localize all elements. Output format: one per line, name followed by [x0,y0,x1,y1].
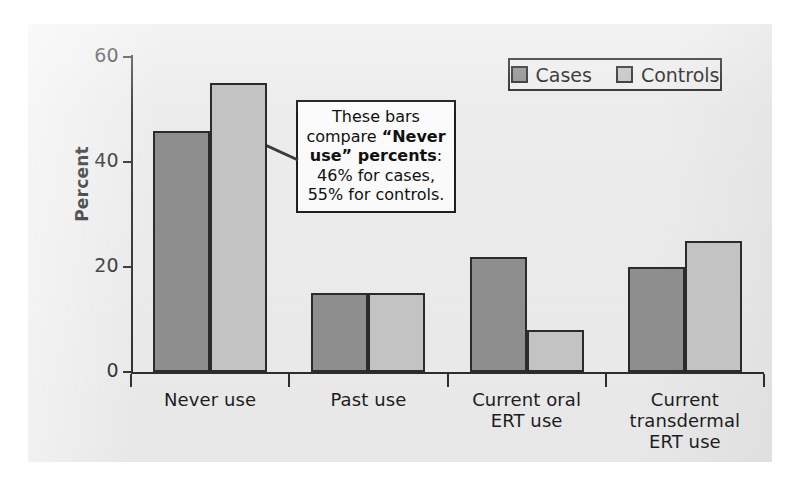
y-axis-tick-label: 0 [75,359,119,381]
category-label-line: Current [606,390,764,411]
y-axis-tick-label: 20 [75,254,119,276]
callout-text-line: 46% for cases, [304,166,448,186]
legend-entry-controls: Controls [616,64,720,86]
callout-emphasis: “Never [382,127,446,146]
chart-legend: CasesControls [508,58,722,91]
category-label-line: Past use [289,390,447,411]
cases-swatch [511,66,528,83]
callout-text-line: compare “Never [304,127,448,147]
y-axis-title: Percent [72,124,92,244]
x-axis-tick [447,374,449,387]
x-axis-category-label: Current oralERT use [448,390,606,432]
callout-text-line: use” percents: [304,146,448,166]
x-axis-tick [130,374,132,387]
category-label-line: Current oral [448,390,606,411]
bar-controls-0 [210,83,267,372]
category-label-line: ERT use [448,411,606,432]
callout-text: 55% for controls. [308,185,445,204]
controls-swatch [616,66,633,83]
annotation-callout: These barscompare “Neveruse” percents:46… [296,100,456,213]
bar-cases-3 [628,267,685,372]
category-label-line: Never use [131,390,289,411]
legend-label: Controls [641,64,720,86]
category-label-line: transdermal [606,411,764,432]
x-axis-category-label: Never use [131,390,289,411]
x-axis-tick [288,374,290,387]
legend-entry-cases: Cases [511,64,592,86]
callout-text: compare [306,127,381,146]
callout-text: 46% for cases, [317,166,435,185]
legend-label: Cases [536,64,592,86]
callout-text: : [437,146,442,165]
y-axis-tick-label: 60 [75,44,119,66]
x-axis-tick [605,374,607,387]
bar-cases-2 [470,257,527,373]
callout-text-line: These bars [304,107,448,127]
x-axis-tick [763,374,765,387]
callout-text-line: 55% for controls. [304,185,448,205]
callout-emphasis: use” percents [310,146,437,165]
x-axis-category-label: Past use [289,390,447,411]
callout-text: These bars [332,107,420,126]
bar-cases-1 [311,293,368,372]
bar-controls-2 [527,330,584,372]
category-label-line: ERT use [606,432,764,453]
bar-controls-3 [685,241,742,372]
chart-panel: 6040200 Percent Never usePast useCurrent… [28,24,772,462]
x-axis-category-label: CurrenttransdermalERT use [606,390,764,453]
figure-screenshot: 6040200 Percent Never usePast useCurrent… [0,0,804,487]
bar-cases-0 [153,131,210,373]
bar-controls-1 [368,293,425,372]
